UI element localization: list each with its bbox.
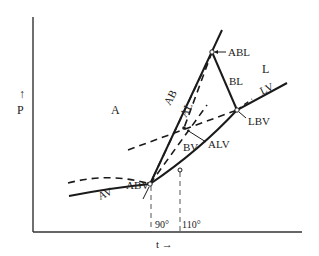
point-alv-label: ALV: [208, 138, 230, 150]
point-lbv: [235, 108, 239, 112]
tick-110-label: 110°: [182, 219, 201, 230]
curve-lv-label: LV: [258, 80, 275, 97]
point-bv-label: BV: [183, 141, 198, 153]
curve-av-label: AV: [96, 185, 114, 202]
point-abl: [210, 50, 214, 54]
region-l-label: L: [262, 62, 269, 76]
y-axis-arrow: ↑: [19, 87, 25, 101]
point-abv-label: ABV: [126, 179, 149, 191]
point-abl-label: ABL: [228, 46, 250, 58]
phase-diagram: ↑ P t → A L BL LV AB AL AV ABL LBV ABV B…: [0, 0, 319, 256]
arrow-lbv: [239, 112, 246, 118]
region-a-label: A: [111, 103, 120, 117]
tick-90-label: 90°: [155, 219, 169, 230]
point-bv: [178, 168, 182, 172]
arrow-abl-head: [214, 50, 218, 54]
curve-bl-label: BL: [229, 75, 243, 87]
point-alv: [182, 126, 186, 130]
curve-al-label: AL: [177, 100, 195, 119]
point-lbv-label: LBV: [248, 115, 270, 127]
dashed-lbv-guide: [237, 99, 252, 110]
x-axis-label: t →: [156, 238, 173, 250]
curve-ab-label: AB: [161, 88, 179, 107]
y-axis-label: P: [17, 103, 24, 117]
dashed-al: [150, 105, 207, 184]
